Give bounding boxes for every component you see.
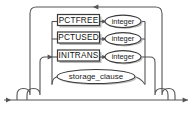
arrow-left-icon-loopback: [93, 5, 98, 10]
branch-pctfree: PCTFREE integer: [58, 15, 143, 29]
pctfree-integer-label: integer: [112, 17, 135, 26]
arrow-right-icon-entry: [6, 98, 11, 103]
inner-left-riser: [27, 57, 52, 100]
pctused-label: PCTUSED: [58, 33, 99, 42]
storage-clause-label: storage_clause: [69, 72, 124, 81]
initrans-label: INITRANS: [59, 51, 99, 60]
branch-pctused: PCTUSED integer: [58, 32, 143, 46]
syntax-diagram: PCTFREE integer PCTUSED integer INITRANS…: [0, 0, 192, 115]
branch-storage-clause: storage_clause: [57, 70, 137, 86]
inner-left-rail: [27, 22, 59, 101]
pctfree-label: PCTFREE: [59, 16, 99, 25]
pctused-integer-label: integer: [112, 34, 135, 43]
branch-initrans: INITRANS integer: [58, 50, 143, 64]
initrans-integer-label: integer: [112, 52, 135, 61]
arrow-right-icon-exit: [183, 98, 188, 103]
inner-right-riser: [145, 57, 168, 100]
main-line-group: [4, 98, 188, 103]
